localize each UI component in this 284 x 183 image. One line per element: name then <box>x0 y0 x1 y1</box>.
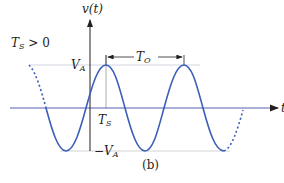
y-axis-label: v(t) <box>82 3 103 15</box>
shifted-sinusoid-diagram: v(t) TS > 0 VA TO TS −VA t (b) <box>0 0 284 183</box>
amplitude-pos-sub: A <box>80 64 86 73</box>
amplitude-neg-label: −VA <box>94 145 119 159</box>
waveform-dotted-left <box>29 65 46 108</box>
period-label-sub: O <box>144 56 151 65</box>
shift-label-sub: S <box>106 119 111 128</box>
waveform-plot <box>0 0 284 183</box>
shift-label-main: T <box>98 113 106 127</box>
condition-label-rest: > 0 <box>25 36 50 50</box>
amplitude-neg-sub: A <box>113 150 119 159</box>
amplitude-pos-label: VA <box>71 59 85 73</box>
figure-caption: (b) <box>142 159 159 171</box>
condition-label: TS > 0 <box>11 37 50 51</box>
period-label-main: T <box>136 50 144 64</box>
amplitude-pos-main: V <box>71 58 80 72</box>
shift-label: TS <box>98 114 112 128</box>
x-axis-label: t <box>281 102 284 114</box>
condition-label-main: T <box>11 36 19 50</box>
amplitude-neg-main: −V <box>94 144 113 158</box>
period-label: TO <box>136 51 151 65</box>
waveform-dotted-right <box>224 110 243 151</box>
